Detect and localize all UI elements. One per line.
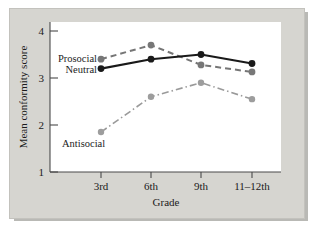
series-point-prosocial xyxy=(249,69,256,76)
series-point-neutral xyxy=(148,56,155,63)
series-point-prosocial xyxy=(198,62,205,69)
x-axis-title: Grade xyxy=(153,196,180,208)
y-tick-label-4: 4 xyxy=(39,25,45,37)
series-line-neutral xyxy=(101,55,252,69)
y-tick-label-3: 3 xyxy=(39,72,45,84)
y-tick-label-2: 2 xyxy=(39,119,45,131)
y-tick-group xyxy=(50,31,58,172)
series-label-prosocial: Prosocial xyxy=(58,53,97,64)
series-point-neutral xyxy=(98,65,105,72)
series-point-antisocial xyxy=(249,96,255,102)
y-axis-title: Mean conformity score xyxy=(17,46,29,149)
x-tick-label-3rd: 3rd xyxy=(94,180,109,192)
series-point-neutral xyxy=(249,60,256,67)
series-label-neutral: Neutral xyxy=(66,64,98,75)
series-point-prosocial xyxy=(148,42,155,49)
series-label-antisocial: Antisocial xyxy=(62,138,105,149)
series-point-antisocial xyxy=(198,80,204,86)
x-tick-label-11-12th: 11–12th xyxy=(234,180,270,192)
x-tick-group xyxy=(101,172,252,178)
series-point-antisocial xyxy=(98,129,104,135)
figure-container: 4 3 2 1 3rd 6th 9th 11–12th Grade Mean c… xyxy=(0,0,316,231)
x-tick-label-6th: 6th xyxy=(144,180,159,192)
y-tick-label-1: 1 xyxy=(39,166,45,178)
series-point-antisocial xyxy=(148,94,154,100)
series-point-neutral xyxy=(198,51,205,58)
line-chart: 4 3 2 1 3rd 6th 9th 11–12th Grade Mean c… xyxy=(0,0,316,231)
series-line-antisocial xyxy=(101,83,252,132)
series-point-prosocial xyxy=(98,56,105,63)
x-tick-label-9th: 9th xyxy=(194,180,209,192)
